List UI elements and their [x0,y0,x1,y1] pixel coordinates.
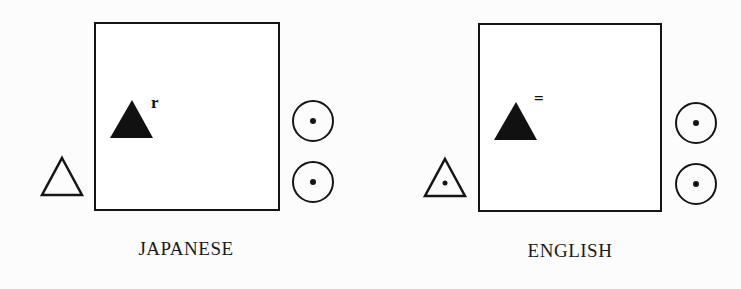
filled-triangle-icon [109,99,155,139]
outline-triangle-icon [40,156,84,198]
dotted-outline-triangle-icon [423,157,467,199]
circled-dot-icon-bottom [291,160,335,204]
english-superscript: = [534,90,544,107]
japanese-superscript: r [151,94,159,111]
circled-dot-icon-bottom [674,162,718,206]
english-label: ENGLISH [470,240,670,262]
circled-dot-icon-top [674,101,718,145]
filled-triangle-icon [493,101,539,141]
circled-dot-icon-top [291,99,335,143]
japanese-label: JAPANESE [86,238,286,260]
